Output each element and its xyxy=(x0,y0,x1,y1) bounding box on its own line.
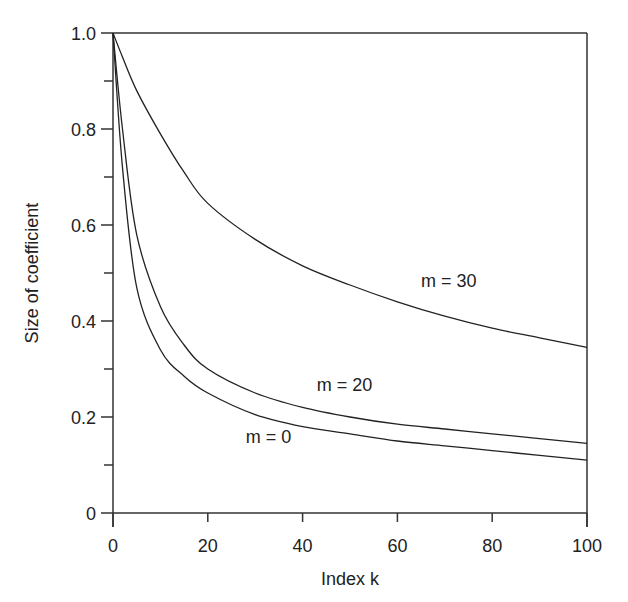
y-tick-label: 0.6 xyxy=(71,216,96,236)
y-tick-label: 0.2 xyxy=(71,408,96,428)
axis-ticks: 02040608010000.20.40.60.81.0 xyxy=(71,24,602,556)
line-chart: 02040608010000.20.40.60.81.0 m = 30m = 2… xyxy=(0,0,628,602)
x-tick-label: 40 xyxy=(293,536,313,556)
x-tick-label: 20 xyxy=(198,536,218,556)
y-axis-label: Size of coefficient xyxy=(22,203,42,344)
y-tick-label: 0.8 xyxy=(71,120,96,140)
curve-m30 xyxy=(113,33,587,347)
y-tick-label: 0.4 xyxy=(71,312,96,332)
x-axis-label: Index k xyxy=(321,569,380,589)
y-tick-label: 0 xyxy=(86,504,96,524)
x-tick-label: 100 xyxy=(572,536,602,556)
x-tick-label: 60 xyxy=(387,536,407,556)
curve-label: m = 30 xyxy=(421,271,477,291)
curve-m0 xyxy=(113,33,587,460)
curves xyxy=(113,33,587,460)
y-tick-label: 1.0 xyxy=(71,24,96,44)
curve-label: m = 0 xyxy=(246,427,292,447)
x-tick-label: 80 xyxy=(482,536,502,556)
curve-label: m = 20 xyxy=(317,375,373,395)
curve-labels: m = 30m = 20m = 0 xyxy=(246,271,477,447)
x-tick-label: 0 xyxy=(108,536,118,556)
